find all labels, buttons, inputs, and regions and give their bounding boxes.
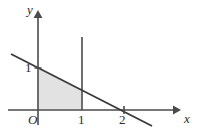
x-tick-label-1: 1 — [78, 113, 85, 126]
x-axis-label: x — [184, 112, 190, 125]
origin-label: O — [28, 113, 37, 126]
y-axis-arrow-icon — [34, 10, 43, 18]
figure-container: y x 1 O 1 2 — [0, 0, 201, 137]
shaded-region — [39, 69, 81, 109]
y-tick-label-1: 1 — [25, 61, 32, 74]
x-tick-label-2: 2 — [119, 113, 126, 126]
y-axis-label: y — [27, 3, 33, 16]
x-axis-arrow-icon — [173, 106, 181, 115]
